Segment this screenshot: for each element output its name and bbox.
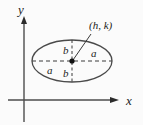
semi-major-label-left: a (47, 64, 53, 76)
center-callout-leader-line (73, 34, 91, 60)
x-axis-arrowhead-icon (110, 97, 119, 103)
x-axis-label: x (125, 93, 132, 108)
ellipse-diagram-canvas: (h, k) a a b b y x (0, 0, 143, 125)
center-coordinate-label: (h, k) (89, 19, 113, 32)
y-axis-arrowhead-icon (21, 16, 27, 24)
ellipse-figure: (h, k) a a b b y x (0, 0, 143, 125)
semi-minor-label-bottom: b (63, 67, 69, 79)
y-axis (21, 16, 27, 122)
ellipse-center-point (69, 58, 74, 63)
semi-minor-label-top: b (63, 44, 69, 56)
semi-major-label-right: a (91, 47, 97, 59)
y-axis-label: y (16, 2, 24, 17)
